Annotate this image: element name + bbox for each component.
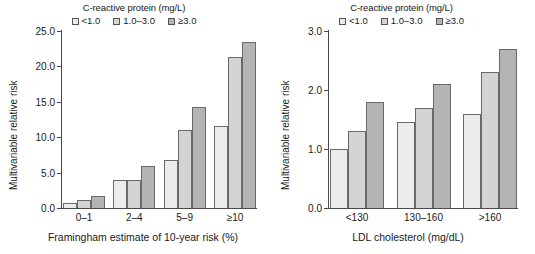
bar	[348, 131, 366, 208]
legend-swatch-lt1	[339, 18, 346, 25]
x-tick-label: 0–1	[76, 212, 93, 223]
y-tick-label: 1.0	[288, 144, 322, 155]
legend-right: C-reactive protein (mg/L) <1.0 1.0–3.0 ≥…	[268, 2, 535, 27]
bar	[366, 102, 384, 208]
bar	[481, 72, 499, 208]
y-tick-label: 2.0	[288, 85, 322, 96]
y-tick-label: 3.0	[288, 26, 322, 37]
y-tick-mark	[324, 90, 328, 91]
y-tick-mark	[324, 31, 328, 32]
legend-swatch-1to3	[381, 18, 388, 25]
x-tick-label: 2–4	[126, 212, 143, 223]
y-tick-label: 15.0	[21, 96, 55, 107]
legend-left: C-reactive protein (mg/L) <1.0 1.0–3.0 ≥…	[0, 2, 268, 27]
legend-label-lt1: <1.0	[349, 15, 368, 27]
legend-item-1to3: 1.0–3.0	[381, 15, 423, 27]
legend-item-1to3: 1.0–3.0	[113, 15, 155, 27]
y-tick-mark	[324, 149, 328, 150]
x-axis-line	[328, 208, 518, 209]
x-tick-label: >160	[479, 212, 502, 223]
bar	[178, 130, 192, 208]
y-axis-label: Multivariable relative risk	[280, 81, 291, 190]
y-tick-mark	[57, 31, 61, 32]
x-axis-label: LDL cholesterol (mg/dL)	[288, 231, 528, 243]
legend-swatch-ge3	[436, 18, 443, 25]
plot-area-ldl	[330, 31, 517, 208]
bar	[397, 122, 415, 208]
legend-label-1to3: 1.0–3.0	[123, 15, 155, 27]
y-tick-label: 0.0	[21, 203, 55, 214]
bar-group	[164, 31, 206, 208]
y-tick-label: 20.0	[21, 61, 55, 72]
bar	[192, 107, 206, 208]
bar-group	[113, 31, 155, 208]
y-tick-mark	[57, 102, 61, 103]
legend-label-ge3: ≥3.0	[178, 15, 196, 27]
y-tick-mark	[57, 173, 61, 174]
legend-item-ge3: ≥3.0	[168, 15, 196, 27]
y-tick-mark	[324, 208, 328, 209]
y-tick-label: 5.0	[21, 167, 55, 178]
bar	[463, 114, 481, 208]
legend-label-1to3: 1.0–3.0	[391, 15, 423, 27]
x-axis-line	[61, 208, 257, 209]
y-tick-mark	[57, 66, 61, 67]
bar-group	[214, 31, 256, 208]
bar	[499, 49, 517, 208]
legend-label-lt1: <1.0	[82, 15, 101, 27]
legend-label-ge3: ≥3.0	[446, 15, 464, 27]
bar-group	[330, 31, 384, 208]
bar	[77, 200, 91, 208]
y-tick-label: 10.0	[21, 132, 55, 143]
bar	[127, 180, 141, 208]
bar	[415, 108, 433, 208]
bar	[113, 180, 127, 208]
x-tick-label: <130	[346, 212, 369, 223]
figure-two-panel-bar-charts: C-reactive protein (mg/L) <1.0 1.0–3.0 ≥…	[0, 0, 535, 254]
bar	[228, 57, 242, 208]
y-tick-mark	[57, 137, 61, 138]
chart-panel-ldl: C-reactive protein (mg/L) <1.0 1.0–3.0 ≥…	[268, 0, 535, 254]
y-tick-label: 25.0	[21, 26, 55, 37]
y-axis-label: Multivariable relative risk	[8, 81, 19, 190]
legend-title: C-reactive protein (mg/L)	[268, 2, 535, 14]
legend-item-lt1: <1.0	[339, 15, 368, 27]
bar	[91, 196, 105, 208]
legend-item-ge3: ≥3.0	[436, 15, 464, 27]
x-tick-label: 5–9	[176, 212, 193, 223]
bar	[242, 42, 256, 208]
bar-group	[463, 31, 517, 208]
legend-title: C-reactive protein (mg/L)	[0, 2, 268, 14]
x-tick-label: 130–160	[404, 212, 443, 223]
legend-swatch-1to3	[113, 18, 120, 25]
plot-area-framingham	[63, 31, 256, 208]
legend-swatch-ge3	[168, 18, 175, 25]
legend-item-lt1: <1.0	[72, 15, 101, 27]
bar	[214, 126, 228, 208]
bar	[433, 84, 451, 208]
bar	[164, 160, 178, 208]
y-tick-mark	[57, 208, 61, 209]
x-tick-label: ≥10	[227, 212, 244, 223]
bar	[330, 149, 348, 208]
legend-swatch-lt1	[72, 18, 79, 25]
y-tick-label: 0.0	[288, 203, 322, 214]
bar-group	[397, 31, 451, 208]
bar	[141, 166, 155, 208]
bar-group	[63, 31, 105, 208]
x-axis-label: Framingham estimate of 10-year risk (%)	[18, 231, 268, 243]
chart-panel-framingham: C-reactive protein (mg/L) <1.0 1.0–3.0 ≥…	[0, 0, 268, 254]
bar	[63, 203, 77, 208]
